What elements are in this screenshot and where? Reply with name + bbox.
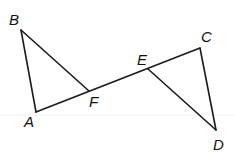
- label-f: F: [89, 93, 99, 110]
- label-c: C: [201, 28, 212, 45]
- label-b: B: [9, 11, 19, 28]
- label-d: D: [213, 136, 224, 153]
- label-a: A: [23, 113, 34, 130]
- label-e: E: [137, 51, 148, 68]
- geometry-diagram: B A F E C D: [0, 0, 234, 156]
- segment-ac: [36, 48, 200, 112]
